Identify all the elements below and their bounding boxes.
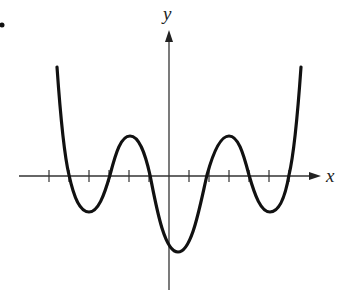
function-curve xyxy=(57,67,301,252)
x-axis-arrow-icon xyxy=(309,172,321,180)
bullet-marker xyxy=(0,23,5,28)
x-axis-label: x xyxy=(325,165,335,186)
y-axis-arrow-icon xyxy=(165,30,173,42)
y-axis-label: y xyxy=(161,3,172,24)
function-graph: y x xyxy=(0,0,337,293)
y-axis xyxy=(165,30,173,290)
x-axis xyxy=(19,172,321,180)
